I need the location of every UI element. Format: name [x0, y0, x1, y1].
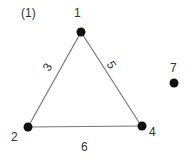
node-label-1: 1	[74, 7, 81, 19]
node-label-2: 2	[11, 131, 18, 143]
node-label-7: 7	[170, 62, 177, 74]
edge-label-6: 6	[81, 141, 88, 153]
graph-canvas	[0, 0, 191, 163]
edge-1-4	[81, 32, 142, 127]
node-label-4: 4	[149, 126, 156, 138]
edge-1-2	[28, 32, 81, 127]
node-4	[138, 122, 147, 131]
node-7	[170, 79, 179, 88]
edge-2-4	[28, 126, 142, 127]
node-1	[77, 28, 86, 37]
panel-label: (1)	[21, 7, 36, 19]
node-2	[24, 123, 33, 132]
